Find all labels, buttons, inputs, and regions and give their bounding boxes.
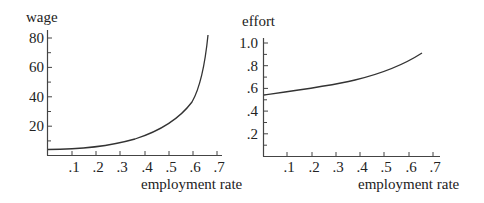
effort-x-tick-labels: .1 .2 .3 .4 .5 .6 .7 — [283, 159, 441, 175]
wage-curve — [48, 35, 208, 150]
wage-x-axis-label: employment rate — [141, 176, 243, 192]
figure: wage 80 60 40 20 — [0, 0, 484, 203]
svg-text:80: 80 — [29, 30, 44, 46]
effort-chart: effort 1.0 .8 .6 .4 .2 — [239, 13, 459, 192]
effort-y-tick-labels: 1.0 .8 .6 .4 .2 — [239, 35, 258, 142]
wage-y-tick-labels: 80 60 40 20 — [29, 30, 44, 134]
svg-text:.7: .7 — [213, 159, 225, 175]
svg-text:.2: .2 — [92, 159, 103, 175]
svg-text:.8: .8 — [247, 58, 258, 74]
svg-text:.5: .5 — [165, 159, 176, 175]
wage-chart: wage 80 60 40 20 — [26, 9, 243, 192]
svg-text:.1: .1 — [283, 159, 294, 175]
svg-text:.2: .2 — [247, 126, 258, 142]
effort-axis-label: effort — [242, 13, 276, 29]
effort-x-axis-label: employment rate — [358, 176, 460, 192]
svg-text:40: 40 — [29, 89, 44, 105]
svg-text:.3: .3 — [116, 159, 127, 175]
svg-text:20: 20 — [29, 118, 44, 134]
svg-text:.4: .4 — [247, 103, 259, 119]
effort-curve — [264, 53, 422, 95]
svg-text:.1: .1 — [68, 159, 79, 175]
wage-x-ticks — [72, 151, 217, 155]
svg-text:1.0: 1.0 — [239, 35, 258, 51]
svg-text:.6: .6 — [405, 159, 417, 175]
svg-text:.5: .5 — [380, 159, 391, 175]
svg-text:.6: .6 — [189, 159, 201, 175]
svg-text:.4: .4 — [141, 159, 153, 175]
svg-text:60: 60 — [29, 59, 44, 75]
svg-text:.7: .7 — [429, 159, 441, 175]
wage-x-tick-labels: .1 .2 .3 .4 .5 .6 .7 — [68, 159, 225, 175]
svg-text:.4: .4 — [356, 159, 368, 175]
wage-axis-label: wage — [26, 9, 58, 25]
effort-x-ticks — [287, 152, 433, 156]
svg-text:.2: .2 — [308, 159, 319, 175]
svg-text:.6: .6 — [247, 80, 259, 96]
svg-text:.3: .3 — [332, 159, 343, 175]
